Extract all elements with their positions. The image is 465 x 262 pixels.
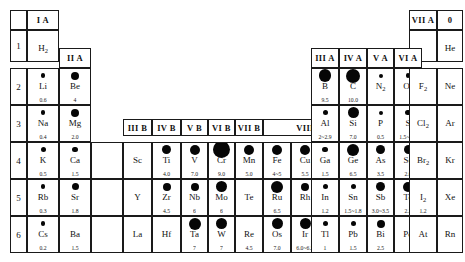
element-cell[interactable]: Te — [235, 179, 263, 216]
element-symbol-text: In — [321, 192, 329, 202]
period-label: 4 — [10, 142, 27, 179]
element-cell[interactable]: Na0.4 — [27, 105, 59, 142]
element-cell[interactable]: Ge6.5 — [339, 142, 367, 179]
element-cell[interactable]: V7.0 — [181, 142, 208, 179]
element-cell[interactable]: Rn — [437, 216, 463, 253]
element-value: 3.5 — [369, 171, 393, 178]
element-symbol-text: W — [217, 229, 226, 239]
element-symbol: As — [375, 155, 385, 165]
element-symbol: Cs — [38, 229, 48, 239]
element-symbol-text: Ne — [445, 81, 456, 91]
element-symbol: Xe — [445, 192, 456, 202]
element-symbol: W — [217, 229, 226, 239]
element-cell[interactable]: Ru6.5 — [263, 179, 291, 216]
element-cell[interactable]: Tl1 — [311, 216, 339, 253]
element-cell[interactable]: F2 — [409, 68, 437, 105]
element-symbol: Br2 — [417, 155, 429, 166]
element-symbol: I2 — [420, 192, 426, 203]
element-symbol: Os — [272, 229, 282, 239]
element-subscript: 2 — [45, 47, 48, 54]
abundance-dot-wrapper — [340, 218, 366, 229]
element-symbol-text: Sr — [71, 192, 79, 202]
element-cell[interactable]: Al2~2.9 — [311, 105, 339, 142]
element-cell[interactable]: K0.5 — [27, 142, 59, 179]
element-cell[interactable]: Bi2.5 — [367, 216, 394, 253]
element-cell[interactable]: Ar — [437, 105, 463, 142]
element-cell[interactable]: Li0.6 — [27, 68, 59, 105]
element-cell[interactable]: Be4 — [59, 68, 91, 105]
element-symbol-text: H — [38, 43, 45, 53]
element-cell[interactable]: Hf — [152, 216, 181, 253]
element-symbol: Hf — [162, 229, 172, 239]
element-cell[interactable]: At — [409, 216, 437, 253]
element-symbol-text: Ru — [272, 192, 283, 202]
element-subscript: 2 — [423, 196, 426, 203]
element-symbol: Kr — [445, 155, 455, 165]
abundance-dot-icon — [71, 109, 79, 117]
element-symbol-text: Xe — [445, 192, 456, 202]
element-cell[interactable]: Cs0.2 — [27, 216, 59, 253]
abundance-dot-icon — [244, 145, 254, 155]
element-value: 7.0 — [265, 245, 290, 252]
element-cell[interactable]: B9.5 — [311, 68, 339, 105]
element-cell[interactable]: Mn5.0 — [235, 142, 263, 179]
element-cell[interactable]: H2 — [27, 30, 59, 62]
element-cell[interactable]: Mo6 — [208, 179, 235, 216]
element-cell[interactable]: C10.0 — [339, 68, 367, 105]
element-cell[interactable]: Os7.0 — [263, 216, 291, 253]
element-cell[interactable]: Kr — [437, 142, 463, 179]
element-cell[interactable]: Ga1.5 — [311, 142, 339, 179]
element-cell[interactable]: Re4.5 — [235, 216, 263, 253]
element-value: 9.5 — [313, 97, 338, 104]
element-cell[interactable]: In1.2 — [311, 179, 339, 216]
element-symbol-text: Li — [39, 81, 47, 91]
element-cell[interactable]: Ta7 — [181, 216, 208, 253]
element-symbol-text: Nb — [189, 192, 200, 202]
element-symbol: Sr — [71, 192, 79, 202]
element-cell[interactable]: Si7.0 — [339, 105, 367, 142]
element-subscript: 2 — [382, 85, 385, 92]
element-cell[interactable]: Sc — [123, 142, 152, 179]
element-cell[interactable]: Ba1.5 — [59, 216, 91, 253]
element-value: 5.0 — [237, 171, 262, 178]
periodic-table: I AII AIII BIV BV BVI BVII BVIIII BII BI… — [0, 0, 465, 262]
abundance-dot-icon — [376, 182, 385, 191]
element-cell[interactable]: As3.5 — [367, 142, 394, 179]
element-symbol-text: Mn — [243, 155, 256, 165]
abundance-dot-wrapper — [312, 70, 338, 81]
element-cell[interactable]: Rb0.3 — [27, 179, 59, 216]
element-cell[interactable]: P0.5 — [367, 105, 394, 142]
element-cell[interactable]: Zr4.5 — [152, 179, 181, 216]
element-cell[interactable]: Nb6 — [181, 179, 208, 216]
element-value: 2.0 — [61, 134, 90, 141]
element-symbol: Ne — [445, 81, 456, 91]
element-cell[interactable]: Xe — [437, 179, 463, 216]
element-cell[interactable]: Y — [123, 179, 152, 216]
element-symbol: Nb — [189, 192, 200, 202]
element-cell[interactable]: La — [123, 216, 152, 253]
element-cell[interactable]: Sb3.0~3.5 — [367, 179, 394, 216]
abundance-dot-icon — [351, 221, 356, 226]
element-cell[interactable]: Ti4.0 — [152, 142, 181, 179]
element-value: 1 — [313, 245, 338, 252]
element-symbol-text: Bi — [376, 229, 385, 239]
element-cell[interactable]: Br2 — [409, 142, 437, 179]
element-cell[interactable]: Cl2 — [409, 105, 437, 142]
element-cell[interactable]: Ne — [437, 68, 463, 105]
element-cell[interactable]: He — [437, 30, 463, 62]
element-value: 7 — [183, 245, 207, 252]
abundance-dot-wrapper — [236, 144, 262, 155]
element-cell[interactable]: Ca1.5 — [59, 142, 91, 179]
element-cell[interactable]: Pb1.5 — [339, 216, 367, 253]
element-cell[interactable]: N2 — [367, 68, 394, 105]
period-label: 6 — [10, 216, 27, 253]
element-cell[interactable]: Sn1.5~1.8 — [339, 179, 367, 216]
element-cell[interactable]: Sr1.8 — [59, 179, 91, 216]
element-cell[interactable]: W7 — [208, 216, 235, 253]
element-cell[interactable]: Cr9.0 — [208, 142, 235, 179]
element-cell[interactable]: I21.2 — [409, 179, 437, 216]
element-cell[interactable]: Fe4~5 — [263, 142, 291, 179]
period-label: 5 — [10, 179, 27, 216]
element-value: 10.0 — [341, 97, 366, 104]
element-cell[interactable]: Mg2.0 — [59, 105, 91, 142]
